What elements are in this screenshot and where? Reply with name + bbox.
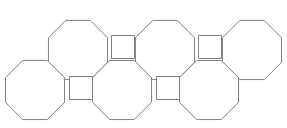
octagon-lower-3 <box>179 60 238 119</box>
square-upper-1 <box>112 36 135 59</box>
square-lower-1 <box>70 77 93 100</box>
square-lower-2 <box>157 77 180 100</box>
octagon-square-tiling-figure <box>0 0 287 128</box>
tiling-canvas <box>0 0 287 128</box>
octagon-lower-1 <box>5 60 64 119</box>
octagon-lower-2 <box>92 60 151 119</box>
square-upper-2 <box>199 36 222 59</box>
